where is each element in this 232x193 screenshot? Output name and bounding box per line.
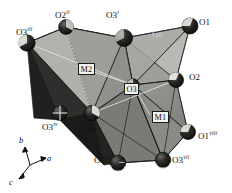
axis-label-a: a — [47, 154, 51, 163]
atom-o2-vi — [110, 155, 126, 171]
atom-label-o3-iii: O3iii — [16, 27, 32, 37]
atom-o3-vii — [155, 152, 171, 168]
atom-label-o1-lower: O1 — [85, 123, 96, 133]
atom-o1-lower — [84, 105, 100, 121]
atom-label-o3-iv: O3iv — [42, 122, 58, 132]
atom-o1-viii — [180, 124, 195, 139]
atom-o3-iii — [18, 35, 35, 51]
atom-label-o3-vii: O3vii — [172, 155, 189, 165]
atom-label-m1: M1 — [152, 111, 169, 123]
atom-label-o2-vi: O2vi — [94, 155, 110, 165]
atom-label-o2-ii: O2ii — [55, 10, 70, 20]
atom-label-o1-viii: O1viii — [198, 131, 217, 141]
atom-o3-iv — [53, 106, 68, 121]
structure-canvas — [0, 0, 232, 193]
axis-label-b: b — [19, 136, 23, 145]
axis-triad — [19, 147, 46, 179]
atom-label-o3: O3 — [124, 83, 139, 95]
axis-label-c: c — [9, 178, 13, 187]
crystal-structure-figure: O2ii O3i O1 O3iii Ge M2 O2 O3 M1 O3iv O1… — [0, 0, 232, 193]
atom-label-o1: O1 — [199, 17, 210, 27]
atom-label-ge: Ge — [152, 29, 163, 39]
atom-label-o2: O2 — [189, 72, 200, 82]
atom-o2 — [168, 72, 183, 87]
atom-o1 — [182, 18, 198, 34]
atom-o3-i — [115, 29, 133, 46]
atom-label-o3-i: O3i — [106, 10, 119, 20]
atom-label-m2: M2 — [78, 63, 95, 75]
atom-o2-ii — [59, 20, 74, 35]
